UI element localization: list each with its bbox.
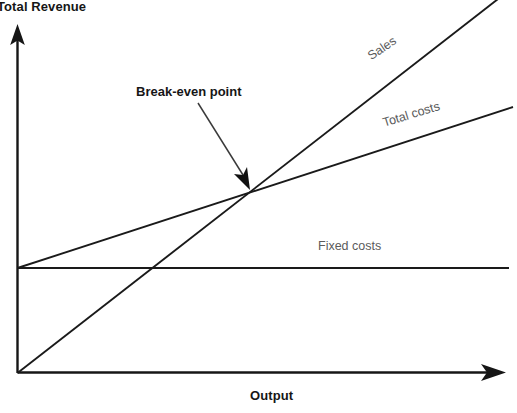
break-even-arrowhead [234, 167, 250, 190]
total-costs-line [18, 107, 514, 268]
x-axis-title: Output [250, 388, 293, 403]
break-even-arrow-shaft [198, 103, 243, 175]
chart-canvas [0, 0, 517, 413]
break-even-point-label: Break-even point [136, 84, 241, 99]
x-axis [18, 364, 507, 381]
break-even-chart: Total Revenue Output Break-even point Sa… [0, 0, 517, 413]
y-axis-title: Total Revenue [0, 0, 86, 14]
fixed-costs-series-label: Fixed costs [318, 239, 381, 253]
y-axis [10, 24, 25, 373]
break-even-arrow [198, 103, 250, 190]
sales-line [18, 0, 499, 373]
